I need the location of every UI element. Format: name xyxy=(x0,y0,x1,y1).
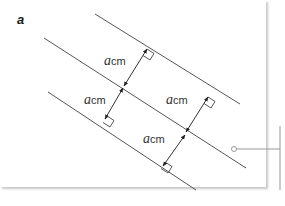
right-angle-icon xyxy=(143,49,154,60)
callout-anchor-icon xyxy=(232,147,237,152)
distance-marker-upper-right xyxy=(186,97,208,132)
measurement-variable: a xyxy=(143,131,150,146)
parallel-lines-diagram xyxy=(0,0,285,206)
distance-marker-lower-left xyxy=(105,88,123,119)
measurement-label-upper-left: acm xyxy=(104,53,126,69)
measurement-variable: a xyxy=(166,92,173,107)
measurement-variable: a xyxy=(104,53,111,68)
measurement-variable: a xyxy=(84,92,91,107)
measurement-unit: cm xyxy=(111,55,126,67)
measurement-unit: cm xyxy=(91,94,106,106)
parallel-line-middle xyxy=(44,38,246,168)
right-angle-icon xyxy=(204,97,215,108)
measurement-unit: cm xyxy=(150,133,165,145)
measurement-label-lower-right: acm xyxy=(143,131,165,147)
measurement-label-lower-left: acm xyxy=(84,92,106,108)
right-angle-icon xyxy=(103,116,114,127)
distance-marker-upper-left xyxy=(124,49,147,86)
measurement-unit: cm xyxy=(173,94,188,106)
distance-marker-lower-right xyxy=(163,135,185,166)
measurement-label-upper-right: acm xyxy=(166,92,188,108)
